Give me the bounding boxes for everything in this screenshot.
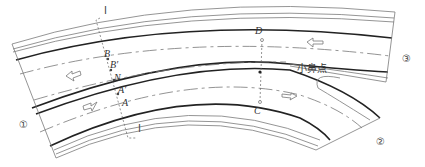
median-edge-upper (32, 62, 388, 108)
section-mark-bottom: Ⅰ (138, 123, 141, 134)
nose-label: 小鼻点 (297, 62, 327, 74)
section-mark-top: Ⅰ (104, 5, 107, 16)
point-C: C (254, 105, 261, 116)
point-D: D (254, 25, 263, 36)
end-cap-right-bottom (316, 118, 380, 150)
arrow-left-ramp3 (307, 38, 323, 47)
point-N: N (113, 72, 122, 83)
branch-2-label: ② (376, 136, 385, 147)
branch-1-label: ① (19, 119, 28, 130)
point-B: B (104, 48, 110, 59)
point-A-prime: A′ (117, 84, 127, 95)
outer-edge-bottom-3 (56, 125, 316, 158)
branch-3-label: ③ (402, 53, 411, 64)
road-diagram: Ⅰ Ⅰ B B′ N A′ A D C 小鼻点 ① ② ③ (0, 0, 425, 167)
arrow-right-lower (83, 102, 97, 111)
point-A: A (121, 97, 129, 108)
end-cap-right-top (386, 12, 395, 82)
arrow-left-upper (66, 71, 81, 81)
nose-point (258, 70, 261, 73)
point-B-prime: B′ (110, 59, 119, 70)
median-edge-lower (36, 68, 380, 118)
